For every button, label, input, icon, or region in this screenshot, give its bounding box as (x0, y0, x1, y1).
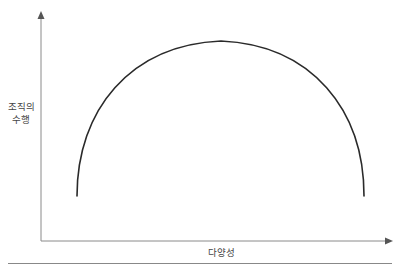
y-axis-arrow-icon (38, 11, 45, 19)
y-axis-label-line1: 조직의 (4, 100, 38, 113)
diversity-performance-diagram: 조직의 수행 다양성 (0, 0, 398, 268)
diagram-canvas (0, 0, 398, 268)
performance-curve (77, 41, 364, 196)
x-axis-label: 다양성 (196, 246, 246, 259)
x-axis-arrow-icon (385, 238, 393, 245)
bottom-divider (8, 263, 392, 264)
y-axis-label: 조직의 수행 (4, 100, 38, 126)
y-axis-label-line2: 수행 (4, 113, 38, 126)
